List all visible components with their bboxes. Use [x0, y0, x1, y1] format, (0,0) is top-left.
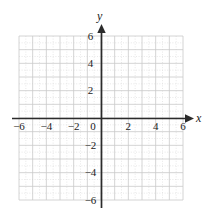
y-tick-label-2: 2	[84, 85, 97, 96]
y-tick-label--2: −2	[84, 140, 97, 151]
x-tick-label--4: −4	[38, 121, 54, 132]
x-tick-label-2: 2	[120, 121, 136, 132]
x-tick-label-4: 4	[148, 121, 164, 132]
y-tick-label-4: 4	[84, 58, 97, 69]
x-tick-label--2: −2	[66, 121, 82, 132]
y-tick-label--6: −6	[84, 195, 97, 206]
coordinate-plane-svg	[0, 0, 206, 220]
x-axis-label: x	[196, 112, 201, 124]
y-axis-arrowhead	[97, 24, 105, 33]
coordinate-grid-figure: −6−4−20246642−2−4−6 x y	[0, 0, 206, 220]
x-tick-label-6: 6	[175, 121, 191, 132]
x-tick-label-origin: 0	[87, 121, 99, 132]
y-tick-label-6: 6	[84, 31, 97, 42]
x-tick-label--6: −6	[11, 121, 27, 132]
y-axis-label: y	[97, 10, 102, 22]
y-tick-label--4: −4	[84, 167, 97, 178]
